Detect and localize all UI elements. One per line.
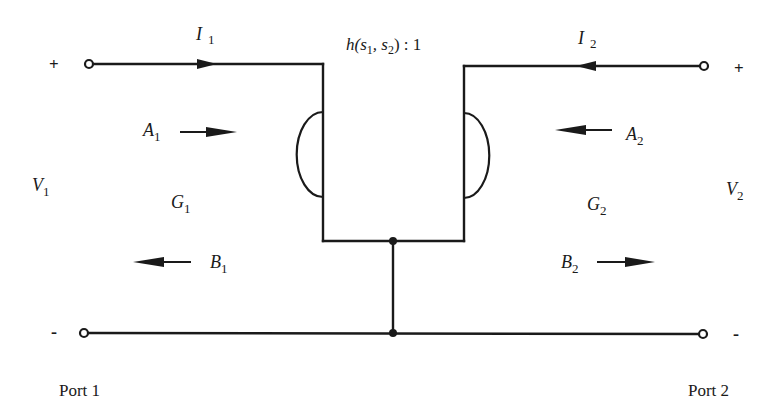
incident-wave-a1-arrow-icon bbox=[180, 127, 237, 137]
current-i1-arrow-icon bbox=[197, 59, 217, 69]
reflected-wave-b1-arrow-icon bbox=[133, 257, 191, 267]
port2-label: Port 2 bbox=[688, 381, 729, 400]
port2-plus-sign: + bbox=[734, 59, 744, 78]
voltage-v1-label: V1 bbox=[32, 175, 50, 199]
conductance-g1-label: G1 bbox=[171, 192, 191, 216]
incident-wave-a2-label: A2 bbox=[625, 124, 644, 148]
transformer-secondary-winding bbox=[464, 66, 489, 241]
transformer-primary-winding bbox=[297, 64, 323, 241]
port1-label: Port 1 bbox=[59, 381, 100, 400]
transformer-common-connection bbox=[323, 241, 464, 333]
current-i2-label: I2 bbox=[577, 28, 597, 51]
port1-minus-sign: - bbox=[51, 322, 57, 342]
incident-wave-a2-arrow-icon bbox=[555, 125, 612, 135]
voltage-v2-label: V2 bbox=[726, 179, 744, 203]
port2-minus-sign: - bbox=[733, 324, 739, 344]
port2-minus-terminal[interactable] bbox=[699, 330, 707, 338]
conductance-g2-label: G2 bbox=[587, 194, 607, 218]
transformer-ratio-label: h(s1, s2) : 1 bbox=[346, 35, 421, 57]
incident-wave-a1-label: A1 bbox=[142, 120, 161, 144]
port1-minus-terminal[interactable] bbox=[80, 329, 88, 337]
port2-plus-terminal[interactable] bbox=[700, 62, 708, 70]
port1-plus-sign: + bbox=[49, 55, 59, 74]
current-i2-arrow-icon bbox=[576, 61, 596, 71]
current-i1-label: I1 bbox=[195, 24, 215, 47]
bottom-return-wire bbox=[88, 333, 699, 334]
reflected-wave-b2-arrow-icon bbox=[597, 257, 655, 267]
port1-plus-terminal[interactable] bbox=[85, 60, 93, 68]
reflected-wave-b2-label: B2 bbox=[561, 252, 579, 276]
two-port-transformer-diagram: + - + - I1 I2 h(s1, s2) : 1 A1 A2 V1 V2 … bbox=[0, 0, 782, 409]
junction-dot-top bbox=[389, 237, 397, 245]
reflected-wave-b1-label: B1 bbox=[210, 252, 228, 276]
